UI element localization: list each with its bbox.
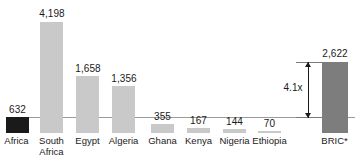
bar-value-ethiopia: 70 <box>254 118 285 129</box>
bar-egypt <box>76 76 99 133</box>
arrow-up-icon <box>305 62 311 67</box>
bar-bric <box>322 62 348 133</box>
category-label-nigeria-line1: Nigeria <box>219 135 249 146</box>
bar-value-algeria: 1,356 <box>105 73 143 84</box>
bar-value-bric: 2,622 <box>316 48 354 59</box>
bar-ghana <box>151 124 174 133</box>
bar-nigeria <box>223 129 246 133</box>
category-label-ethiopia-line1: Ethiopia <box>252 135 286 146</box>
category-label-algeria-line1: Algeria <box>109 135 139 146</box>
bar-south-africa <box>40 22 63 133</box>
bar-value-south-africa: 4,198 <box>33 8 71 19</box>
category-label-algeria: Algeria <box>103 136 144 147</box>
bar-algeria <box>112 86 135 133</box>
bar-value-africa: 632 <box>6 104 29 115</box>
bar-ethiopia <box>258 131 281 133</box>
category-label-kenya: Kenya <box>178 136 219 147</box>
category-label-africa-line1: Africa <box>4 135 28 146</box>
multiplier-label: 4.1x <box>278 82 308 93</box>
category-label-south-africa: South Africa <box>31 136 72 157</box>
category-label-egypt-line1: Egypt <box>75 135 99 146</box>
multiplier-annotation: 4.1x <box>296 62 322 118</box>
category-label-bric: BRIC* <box>314 136 355 147</box>
plot-area: 632 Africa 4,198 South Africa 1,658 Egyp… <box>0 0 363 157</box>
bar-africa <box>6 117 29 133</box>
arrow-down-icon <box>305 113 311 118</box>
bar-kenya <box>187 128 210 133</box>
category-label-south-africa-line1: South <box>39 135 64 146</box>
category-label-ghana-line1: Ghana <box>148 135 177 146</box>
bar-value-kenya: 167 <box>183 115 214 126</box>
category-label-ethiopia: Ethiopia <box>249 136 290 147</box>
bar-value-ghana: 355 <box>147 111 178 122</box>
bar-chart: 632 Africa 4,198 South Africa 1,658 Egyp… <box>0 0 363 157</box>
bar-value-egypt: 1,658 <box>69 63 107 74</box>
category-label-ghana: Ghana <box>142 136 183 147</box>
category-label-kenya-line1: Kenya <box>185 135 212 146</box>
annotation-arrow-line <box>308 62 309 118</box>
category-label-south-africa-line2: Africa <box>39 146 63 157</box>
bar-value-nigeria: 144 <box>219 116 250 127</box>
category-label-egypt: Egypt <box>67 136 108 147</box>
category-label-bric-line1: BRIC* <box>321 135 347 146</box>
